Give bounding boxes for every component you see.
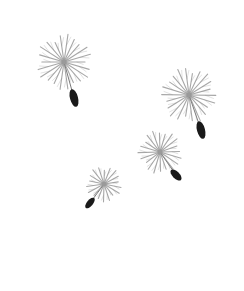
pappus-center [62, 60, 66, 64]
pappus-ray [159, 133, 160, 152]
pappus-center [102, 182, 106, 186]
pappus-ray [160, 152, 161, 171]
pappus-center [158, 150, 162, 154]
pappus-center [187, 93, 191, 97]
dandelion-seeds-illustration [0, 0, 244, 291]
background [0, 0, 244, 291]
pappus-ray [138, 152, 160, 153]
pappus-ray [160, 151, 180, 152]
